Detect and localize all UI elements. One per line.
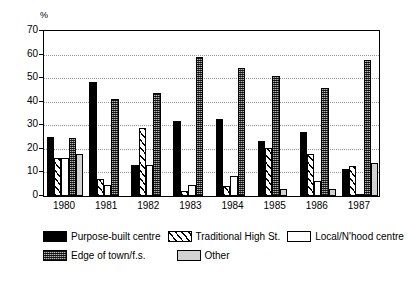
bar-1983-series-4 bbox=[196, 57, 203, 196]
y-tick-label-20: 20 bbox=[4, 143, 38, 153]
bar-1987-series-4 bbox=[364, 60, 371, 196]
bar-1984-series-4 bbox=[238, 68, 245, 196]
bar-1987-series-3 bbox=[356, 194, 363, 196]
bar-1982-series-4 bbox=[153, 93, 160, 196]
x-tick-label-1980: 1980 bbox=[41, 200, 87, 211]
legend-swatch-icon-1 bbox=[43, 231, 67, 242]
bar-1981-series-4 bbox=[111, 99, 118, 196]
bar-1985-series-1 bbox=[258, 141, 265, 196]
bar-group-1987 bbox=[342, 31, 378, 196]
bar-1981-series-2 bbox=[97, 179, 104, 196]
y-axis-unit-label: % bbox=[40, 10, 48, 20]
y-tick-mark-50 bbox=[39, 77, 43, 78]
y-tick-label-30: 30 bbox=[4, 119, 38, 129]
legend-swatch-icon-4 bbox=[43, 250, 67, 261]
bar-group-1983 bbox=[173, 31, 209, 196]
bar-1981-series-3 bbox=[104, 185, 111, 196]
x-tick-label-1987: 1987 bbox=[336, 200, 382, 211]
y-tick-label-0: 0 bbox=[4, 190, 38, 200]
x-tick-label-1984: 1984 bbox=[210, 200, 256, 211]
bar-1980-series-1 bbox=[47, 137, 54, 196]
bar-1985-series-4 bbox=[272, 76, 279, 196]
legend-label-5: Other bbox=[205, 250, 230, 261]
bar-1985-series-2 bbox=[265, 148, 272, 196]
x-tick-label-1982: 1982 bbox=[125, 200, 171, 211]
bar-group-1984 bbox=[216, 31, 252, 196]
legend-row-1: Purpose-built centreTraditional High St.… bbox=[43, 228, 395, 244]
legend-swatch-icon-5 bbox=[177, 250, 201, 261]
legend-item-2[interactable]: Traditional High St. bbox=[168, 231, 288, 242]
y-tick-label-70: 70 bbox=[4, 25, 38, 35]
bar-1987-series-1 bbox=[342, 169, 349, 196]
bar-1982-series-2 bbox=[139, 128, 146, 196]
bar-1984-series-1 bbox=[216, 119, 223, 196]
bar-1987-series-2 bbox=[349, 166, 356, 196]
bar-1985-series-5 bbox=[280, 189, 287, 196]
bar-1986-series-2 bbox=[307, 154, 314, 196]
x-tick-label-1985: 1985 bbox=[252, 200, 298, 211]
legend-label-4: Edge of town/f.s. bbox=[71, 250, 146, 261]
legend-item-5[interactable]: Other bbox=[177, 250, 237, 261]
y-tick-mark-10 bbox=[39, 171, 43, 172]
bar-1987-series-5 bbox=[371, 163, 378, 196]
y-tick-label-10: 10 bbox=[4, 166, 38, 176]
bar-1986-series-4 bbox=[321, 88, 328, 196]
bar-1980-series-4 bbox=[69, 138, 76, 196]
bar-1982-series-3 bbox=[146, 165, 153, 196]
legend-label-3: Local/N'hood centre bbox=[315, 231, 404, 242]
bar-group-1980 bbox=[47, 31, 83, 196]
y-tick-mark-20 bbox=[39, 148, 43, 149]
x-tick-label-1983: 1983 bbox=[167, 200, 213, 211]
bar-1984-series-3 bbox=[230, 176, 237, 196]
bar-group-1985 bbox=[258, 31, 294, 196]
legend-row-2: Edge of town/f.s.Other bbox=[43, 247, 395, 263]
bar-1982-series-1 bbox=[131, 165, 138, 196]
bar-1986-series-5 bbox=[329, 189, 336, 196]
legend-label-2: Traditional High St. bbox=[196, 231, 281, 242]
bar-1980-series-2 bbox=[54, 158, 61, 196]
y-tick-label-60: 60 bbox=[4, 49, 38, 59]
y-tick-label-50: 50 bbox=[4, 72, 38, 82]
bar-1983-series-2 bbox=[181, 191, 188, 196]
y-tick-mark-70 bbox=[39, 30, 43, 31]
legend-swatch-icon-2 bbox=[168, 231, 192, 242]
bar-1983-series-3 bbox=[188, 185, 195, 196]
y-tick-mark-60 bbox=[39, 54, 43, 55]
y-tick-mark-0 bbox=[39, 195, 43, 196]
bar-group-1982 bbox=[131, 31, 167, 196]
legend-swatch-icon-3 bbox=[287, 231, 311, 242]
bar-1980-series-3 bbox=[61, 158, 68, 196]
x-tick-label-1986: 1986 bbox=[294, 200, 340, 211]
legend-item-3[interactable]: Local/N'hood centre bbox=[287, 231, 408, 242]
y-tick-mark-40 bbox=[39, 101, 43, 102]
x-tick-label-1981: 1981 bbox=[83, 200, 129, 211]
bar-plot bbox=[44, 31, 379, 196]
bar-1984-series-2 bbox=[223, 186, 230, 196]
bar-1986-series-1 bbox=[300, 132, 307, 196]
chart-legend: Purpose-built centreTraditional High St.… bbox=[43, 228, 395, 266]
bar-1981-series-1 bbox=[89, 82, 96, 196]
bar-group-1981 bbox=[89, 31, 125, 196]
legend-label-1: Purpose-built centre bbox=[71, 231, 161, 242]
bar-1980-series-5 bbox=[76, 154, 83, 196]
y-tick-mark-30 bbox=[39, 124, 43, 125]
legend-item-4[interactable]: Edge of town/f.s. bbox=[43, 250, 153, 261]
bar-1983-series-1 bbox=[173, 121, 180, 196]
bar-group-1986 bbox=[300, 31, 336, 196]
bar-1986-series-3 bbox=[314, 181, 321, 196]
legend-item-1[interactable]: Purpose-built centre bbox=[43, 231, 168, 242]
y-tick-label-40: 40 bbox=[4, 96, 38, 106]
chart-plot-frame bbox=[43, 30, 380, 197]
